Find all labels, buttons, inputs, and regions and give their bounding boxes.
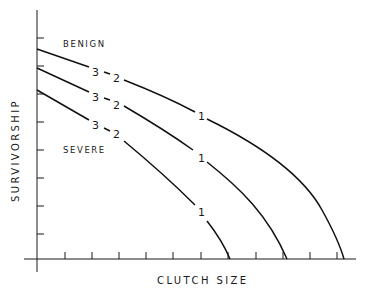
curve-severe-seg2 (104, 128, 110, 131)
curve-mid-seg4 (207, 162, 287, 259)
curve-point-labels: 3 2 1 3 2 1 3 2 1 (92, 66, 205, 219)
curve-mid-seg2 (104, 98, 110, 100)
label-2-mid: 2 (113, 99, 120, 112)
annotation-severe: SEVERE (63, 145, 106, 155)
label-1-mid: 1 (198, 152, 205, 165)
y-axis-title: SURVIVORSHIP (10, 99, 21, 202)
label-2-benign: 2 (113, 72, 120, 85)
curve-severe-seg4 (207, 221, 230, 259)
curve-benign-seg3 (124, 80, 195, 112)
x-ticks (65, 252, 337, 259)
label-3-benign: 3 (92, 66, 99, 79)
annotation-benign: BENIGN (63, 39, 106, 49)
axes (24, 10, 356, 272)
curve-benign-seg2 (104, 72, 110, 74)
label-2-severe: 2 (113, 128, 120, 141)
y-ticks (37, 38, 44, 234)
curve-benign-seg1 (37, 49, 89, 67)
curve-severe-seg1 (37, 90, 89, 120)
curve-mid-seg1 (37, 68, 89, 92)
curve-benign-seg4 (207, 119, 344, 259)
x-axis-title: CLUTCH SIZE (157, 275, 248, 286)
survivorship-chart: 3 2 1 3 2 1 3 2 1 BENIGN SEVERE CLUTCH S… (0, 0, 373, 292)
label-3-mid: 3 (92, 91, 99, 104)
label-1-benign: 1 (198, 110, 205, 123)
curve-mid-seg3 (124, 106, 193, 150)
label-1-severe: 1 (198, 206, 205, 219)
curve-severe-seg3 (124, 141, 195, 205)
label-3-severe: 3 (92, 119, 99, 132)
